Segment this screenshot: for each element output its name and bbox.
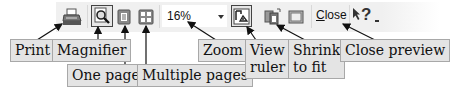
callout-close-preview: Close preview bbox=[340, 39, 450, 62]
callout-text-line2: to fit bbox=[293, 59, 326, 75]
callout-text: Zoom bbox=[203, 42, 243, 58]
callout-shrink-to-fit: Shrinkto fit bbox=[288, 39, 345, 79]
callout-text: Print bbox=[15, 42, 50, 58]
callout-view-ruler: Viewruler bbox=[245, 39, 290, 79]
callout-zoom: Zoom bbox=[198, 39, 248, 62]
callout-magnifier: Magnifier bbox=[52, 39, 131, 62]
callout-text-line1: Shrink bbox=[293, 42, 340, 58]
callout-text: One page bbox=[72, 67, 140, 83]
callout-multiple-pages: Multiple pages bbox=[137, 64, 253, 87]
callout-text: Close preview bbox=[345, 42, 445, 58]
callout-one-page: One page bbox=[67, 64, 145, 87]
callout-text: Magnifier bbox=[57, 42, 126, 58]
callout-print: Print bbox=[10, 39, 55, 62]
callout-text-line1: View bbox=[250, 42, 285, 58]
callout-text-line2: ruler bbox=[250, 59, 285, 75]
callout-text: Multiple pages bbox=[142, 67, 248, 83]
